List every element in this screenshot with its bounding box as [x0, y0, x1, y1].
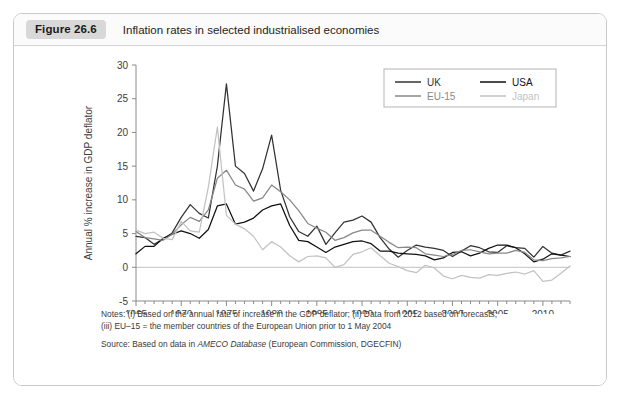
note-line-2: (iii) EU–15 = the member countries of th…	[101, 320, 581, 332]
legend-label-usa: USA	[512, 77, 533, 88]
source-suffix: (European Commission, DGECFIN)	[266, 339, 401, 349]
figure-body: 302520151050-519651970197519801985199019…	[14, 46, 606, 386]
y-axis-tick-label: 0	[122, 262, 128, 273]
y-axis-tick-label: 25	[117, 93, 129, 104]
y-axis-tick-label: 10	[117, 194, 129, 205]
legend-label-japan: Japan	[512, 91, 539, 102]
chart-canvas: 302520151050-519651970197519801985199019…	[14, 46, 606, 314]
y-axis-tick-label: -5	[119, 296, 128, 307]
figure-container: Figure 26.6 Inflation rates in selected …	[13, 13, 607, 386]
figure-number-badge: Figure 26.6	[26, 20, 106, 39]
source-prefix: Source: Based on data in	[101, 339, 197, 349]
legend-label-eu-15: EU-15	[427, 91, 456, 102]
y-axis-tick-label: 30	[117, 60, 129, 71]
y-axis-tick-label: 5	[122, 228, 128, 239]
figure-source: Source: Based on data in AMECO Database …	[101, 339, 401, 349]
figure-header: Figure 26.6 Inflation rates in selected …	[14, 14, 606, 46]
series-line-japan	[136, 127, 570, 281]
figure-notes: Notes: (i) Based on the annual rate of i…	[101, 308, 581, 332]
series-line-uk	[136, 84, 570, 257]
note-line-1: Notes: (i) Based on the annual rate of i…	[101, 308, 581, 320]
legend-label-uk: UK	[427, 77, 441, 88]
y-axis-title: Annual % increase in GDP deflator	[83, 105, 94, 260]
source-publication: AMECO Database	[197, 339, 266, 349]
figure-title: Inflation rates in selected industrialis…	[123, 24, 379, 36]
y-axis-tick-label: 20	[117, 127, 129, 138]
y-axis-tick-label: 15	[117, 161, 129, 172]
inflation-line-chart: 302520151050-519651970197519801985199019…	[14, 46, 606, 314]
